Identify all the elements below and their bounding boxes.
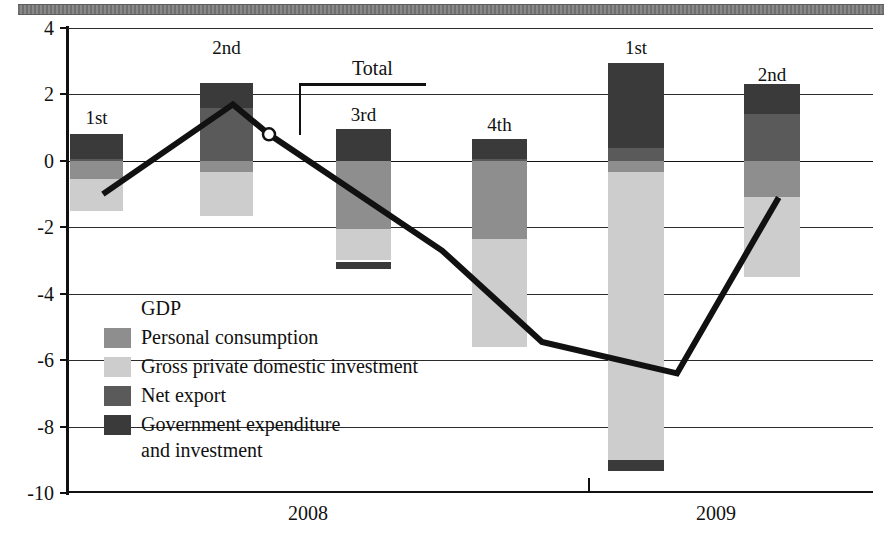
- bar-category-label: 1st: [50, 108, 143, 127]
- legend-swatch: [104, 415, 131, 435]
- bar-category-label: 2nd: [724, 65, 820, 84]
- bar-segment: [744, 197, 800, 277]
- y-axis-tick-label: -6: [8, 350, 54, 370]
- legend-item-label: Personal consumption: [141, 326, 318, 349]
- bar-category-label: 4th: [452, 115, 547, 134]
- y-axis-tick-label: 2: [8, 84, 54, 104]
- legend-item-label: Gross private domestic investment: [141, 355, 418, 378]
- legend-title: GDP: [141, 298, 181, 318]
- bar-segment: [472, 161, 527, 239]
- bar-segment: [744, 161, 800, 198]
- legend-item-label-line2: and investment: [141, 439, 263, 462]
- bar-segment: [608, 161, 664, 173]
- legend-swatch: [104, 357, 131, 377]
- bar-segment: [70, 134, 123, 159]
- legend-item-label: Net export: [141, 384, 226, 407]
- bar-category-label: 2nd: [180, 38, 273, 57]
- y-axis-tick-label: 0: [8, 151, 54, 171]
- bar-segment: [70, 161, 123, 179]
- total-annotation-label: Total: [352, 58, 393, 78]
- bar-segment: [744, 114, 800, 161]
- total-callout-vertical: [299, 83, 301, 135]
- legend-item: Government expenditureand investment: [104, 413, 534, 437]
- bar-category-label: 1st: [588, 38, 684, 57]
- y-axis-tick-label: -8: [8, 417, 54, 437]
- legend-swatch: [104, 328, 131, 348]
- y-axis-tick-label: -4: [8, 284, 54, 304]
- legend-item: Personal consumption: [104, 326, 534, 350]
- bar-segment: [608, 63, 664, 148]
- legend-item: Net export: [104, 384, 534, 408]
- bar-segment: [608, 460, 664, 472]
- x-axis-group-tick: [588, 478, 590, 493]
- y-axis-tick-label: -10: [8, 483, 54, 503]
- legend: GDP Personal consumptionGross private do…: [104, 298, 534, 448]
- chart-root: 420-2-4-6-8-10 1st2nd3rd4th1st2nd Total …: [0, 0, 893, 533]
- bar-segment: [70, 179, 123, 211]
- total-callout-horizontal: [299, 83, 426, 86]
- bar-segment: [200, 161, 253, 173]
- bar-segment: [336, 161, 391, 229]
- decorative-top-band: [18, 4, 884, 15]
- legend-swatch: [104, 386, 131, 406]
- bar-segment: [336, 129, 391, 161]
- legend-item: Gross private domestic investment: [104, 355, 534, 379]
- bar-segment: [608, 148, 664, 161]
- bar-segment: [472, 139, 527, 159]
- bar-segment: [608, 172, 664, 469]
- bar-category-label: 3rd: [316, 105, 411, 124]
- x-axis-label-2009: 2009: [666, 503, 766, 523]
- bar-segment: [336, 262, 391, 269]
- bar-segment: [744, 84, 800, 114]
- bar-segment: [200, 108, 253, 161]
- bar-segment: [336, 229, 391, 261]
- legend-item-label: Government expenditure: [141, 413, 340, 436]
- bar-segment: [200, 83, 253, 108]
- y-axis-tick-label: -2: [8, 217, 54, 237]
- y-axis-tick-label: 4: [8, 18, 54, 38]
- x-axis-label-2008: 2008: [258, 503, 358, 523]
- bar-segment: [200, 172, 253, 215]
